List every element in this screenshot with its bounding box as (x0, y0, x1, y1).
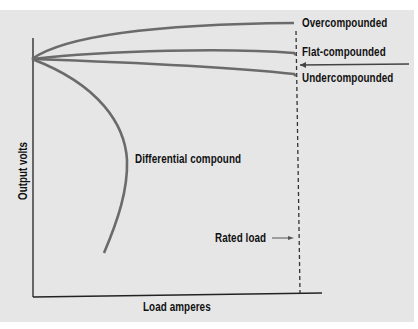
label-differential-compound: Differential compound (135, 152, 241, 166)
curve-differential-compound (32, 59, 127, 253)
curve-overcompounded (32, 23, 294, 59)
flat-arrowhead-icon (300, 62, 306, 68)
label-overcompounded: Overcompounded (302, 16, 387, 30)
curve-flat-compounded (32, 50, 296, 59)
label-flat-compounded: Flat-compounded (302, 45, 386, 59)
rated-load-line (296, 31, 300, 293)
y-axis-label: Output volts (16, 142, 30, 200)
label-undercompounded: Undercompounded (302, 71, 393, 85)
flat-reference-line (300, 64, 409, 65)
rated-load-arrowhead-icon (288, 236, 294, 240)
x-axis-label: Load amperes (143, 300, 211, 314)
curve-undercompounded (32, 59, 296, 76)
x-axis (33, 293, 322, 297)
label-rated-load: Rated load (215, 231, 266, 245)
